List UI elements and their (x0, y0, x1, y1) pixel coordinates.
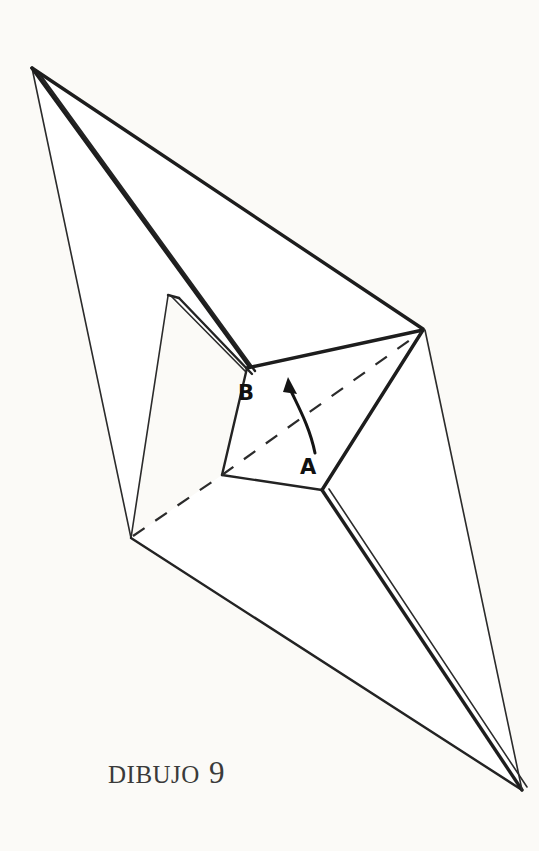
caption-number: 9 (209, 755, 225, 790)
vertex-label-a: A (300, 455, 317, 479)
figure-caption: DIBUJO9 (108, 757, 224, 788)
origami-figure: B A (0, 0, 539, 851)
drawing-sheet: B A DIBUJO9 (0, 0, 539, 851)
caption-word: DIBUJO (108, 761, 200, 788)
vertex-label-b: B (238, 381, 254, 405)
